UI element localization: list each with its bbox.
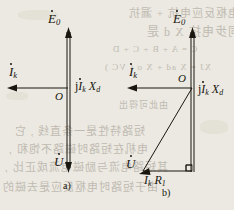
label-u-a-symbol: U: [54, 155, 63, 168]
label-e0-b: E0: [173, 12, 185, 26]
label-e0-b-symbol: E: [173, 12, 181, 25]
label-jikxd-a-xsub: d: [96, 85, 100, 94]
label-jikxd-b: jIk Xd: [198, 83, 223, 97]
label-ikr1-b: Ik R1: [144, 174, 166, 188]
caption-b-text: b): [162, 187, 170, 198]
label-e0-a-symbol: E: [48, 12, 56, 25]
label-jikxd-b-xsub: d: [219, 88, 223, 97]
arrowhead-u-a: [65, 162, 72, 173]
phasor-u-b: [143, 88, 192, 171]
label-ik-b: Ik: [129, 65, 137, 79]
arrowhead-ik-a: [7, 85, 17, 92]
arrowhead-ik-b: [127, 85, 137, 92]
label-ik-b-sub: k: [133, 70, 137, 80]
label-jikxd-b-i: I: [201, 83, 205, 95]
figure-canvas: 电枢反应电抗 + 漏抗 同步电抗 X d 是 C = A + B + C + D…: [0, 0, 234, 210]
caption-b: b): [162, 188, 170, 198]
caption-a: a): [63, 181, 71, 191]
arrowhead-e0-a: [65, 27, 72, 38]
label-ikr1-b-i: I: [144, 174, 148, 186]
label-origin-a-symbol: O: [55, 90, 63, 102]
label-u-a: U: [54, 155, 63, 168]
label-origin-b: O: [178, 73, 186, 84]
label-jikxd-a-i: I: [78, 80, 82, 92]
phasor-artwork: [0, 0, 234, 210]
label-origin-a: O: [55, 91, 63, 102]
caption-a-text: a): [63, 180, 71, 191]
label-u-b-symbol: U: [126, 157, 135, 170]
label-e0-b-sub: 0: [181, 17, 185, 27]
label-ik-a-sub: k: [13, 70, 17, 80]
label-ikr1-b-r: R: [155, 173, 162, 187]
label-jikxd-a-isub: k: [82, 85, 86, 94]
label-jikxd-a: jIk Xd: [75, 80, 100, 94]
label-ik-a-symbol: I: [9, 65, 13, 78]
label-e0-a-sub: 0: [56, 17, 60, 27]
label-ik-b-symbol: I: [129, 65, 133, 78]
arrowhead-e0-b: [189, 27, 196, 38]
label-origin-b-symbol: O: [178, 72, 186, 84]
label-jikxd-b-isub: k: [205, 88, 209, 97]
panel-b-phasors: [127, 27, 196, 175]
label-e0-a: E0: [48, 12, 60, 26]
label-ikr1-b-isub: k: [148, 179, 152, 188]
label-u-b: U: [126, 157, 135, 170]
label-ik-a: Ik: [9, 65, 17, 79]
